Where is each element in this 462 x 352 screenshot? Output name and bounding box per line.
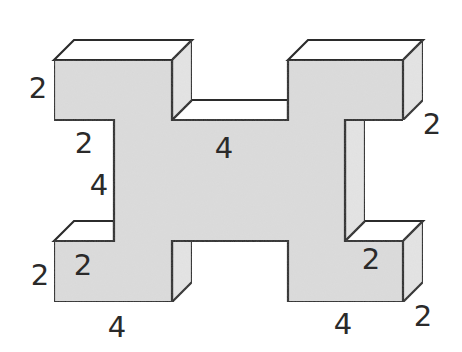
side-face-middle-bottom — [172, 241, 192, 302]
label-bottom-left-block-height: 2 — [31, 258, 49, 292]
label-left-notch-height: 4 — [90, 168, 108, 202]
label-bottom-right-width: 4 — [334, 307, 352, 341]
label-top-left-block-height: 2 — [29, 71, 47, 105]
label-bottom-right-inner: 2 — [362, 242, 380, 276]
top-face-bottom-left-block — [54, 221, 114, 241]
side-face-right-notch — [345, 120, 365, 241]
top-face-top-left-block — [54, 40, 192, 60]
label-middle-width: 4 — [215, 131, 233, 165]
label-top-right-depth: 2 — [423, 107, 441, 141]
top-face-top-right-block — [288, 40, 423, 60]
h-shaped-prism-diagram: 2 2 4 4 2 2 2 4 2 4 2 — [0, 0, 462, 352]
label-bottom-right-depth: 2 — [414, 299, 432, 333]
label-top-left-notch-width: 2 — [75, 126, 93, 160]
label-bottom-left-inner: 2 — [74, 248, 92, 282]
label-bottom-left-width: 4 — [108, 310, 126, 344]
